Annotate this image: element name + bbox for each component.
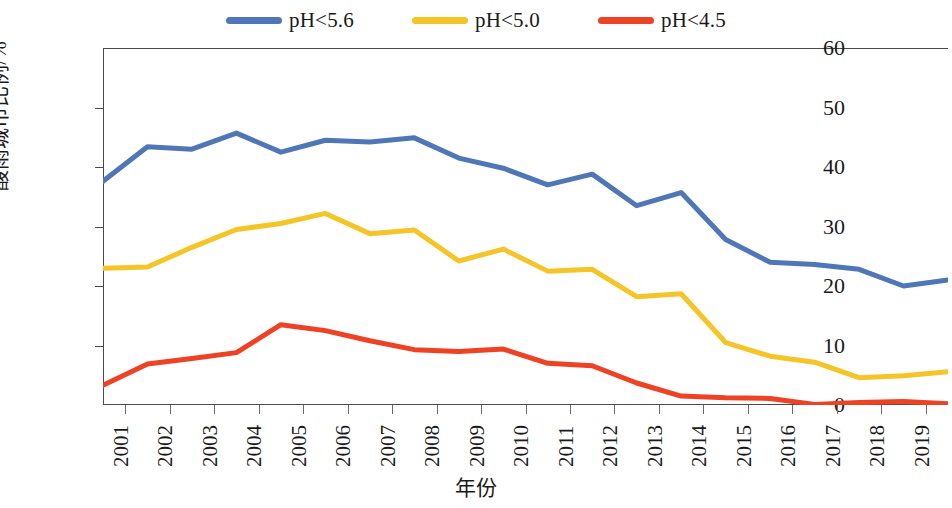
x-tick-label: 2007 <box>378 425 399 467</box>
x-tick-mark <box>392 405 393 414</box>
y-tick-mark <box>95 108 103 109</box>
series-lines <box>103 48 948 405</box>
legend-entry-ph-4-5: pH<4.5 <box>598 10 726 31</box>
x-tick-mark <box>125 405 126 414</box>
legend-label-ph-5-6: pH<5.6 <box>289 10 354 31</box>
x-tick-label: 2002 <box>155 425 176 467</box>
x-tick-mark <box>881 405 882 414</box>
x-tick-label: 2019 <box>912 425 933 467</box>
x-tick-mark <box>748 405 749 414</box>
x-tick-label: 2013 <box>645 425 666 467</box>
x-tick-mark <box>481 405 482 414</box>
x-tick-mark <box>614 405 615 414</box>
x-tick-mark <box>926 405 927 414</box>
x-tick-label: 2004 <box>244 425 265 467</box>
x-tick-label: 2005 <box>289 425 310 467</box>
x-tick-label: 2011 <box>556 426 577 467</box>
y-tick-mark <box>95 227 103 228</box>
x-axis-title: 年份 <box>0 476 952 500</box>
x-tick-mark <box>792 405 793 414</box>
legend-swatch-ph-4-5 <box>598 17 654 24</box>
chart-legend: pH<5.6 pH<5.0 pH<4.5 <box>0 4 952 36</box>
legend-entry-ph-5-6: pH<5.6 <box>226 10 354 31</box>
y-tick-mark <box>95 346 103 347</box>
x-tick-label: 2006 <box>333 425 354 467</box>
acid-rain-proportion-line-chart: pH<5.6 pH<5.0 pH<4.5 酸雨城市比例/% 6050403020… <box>0 0 952 508</box>
x-tick-label: 2016 <box>778 425 799 467</box>
x-tick-label: 2018 <box>867 425 888 467</box>
x-tick-mark <box>526 405 527 414</box>
x-tick-mark <box>303 405 304 414</box>
x-tick-label: 2015 <box>734 425 755 467</box>
x-tick-label: 2012 <box>600 425 621 467</box>
x-tick-label: 2003 <box>200 425 221 467</box>
series-line-ph-5-6 <box>103 133 948 286</box>
x-tick-label: 2014 <box>689 425 710 467</box>
x-tick-mark <box>570 405 571 414</box>
y-tick-mark <box>95 167 103 168</box>
legend-entry-ph-5-0: pH<5.0 <box>412 10 540 31</box>
x-tick-label: 2009 <box>467 425 488 467</box>
x-tick-mark <box>659 405 660 414</box>
x-tick-mark <box>703 405 704 414</box>
y-axis-title: 酸雨城市比例/% <box>0 41 11 191</box>
x-tick-label: 2017 <box>823 425 844 467</box>
x-tick-mark <box>837 405 838 414</box>
legend-swatch-ph-5-0 <box>412 17 468 24</box>
x-tick-label: 2008 <box>422 425 443 467</box>
plot-area: 6050403020100 20012002200320042005200620… <box>103 48 948 405</box>
x-tick-mark <box>348 405 349 414</box>
y-tick-mark <box>95 286 103 287</box>
legend-label-ph-4-5: pH<4.5 <box>661 10 726 31</box>
legend-label-ph-5-0: pH<5.0 <box>475 10 540 31</box>
x-tick-label: 2010 <box>511 425 532 467</box>
x-tick-mark <box>437 405 438 414</box>
x-tick-mark <box>170 405 171 414</box>
x-tick-mark <box>214 405 215 414</box>
x-tick-label: 2001 <box>111 425 132 467</box>
x-tick-mark <box>259 405 260 414</box>
legend-swatch-ph-5-6 <box>226 17 282 24</box>
